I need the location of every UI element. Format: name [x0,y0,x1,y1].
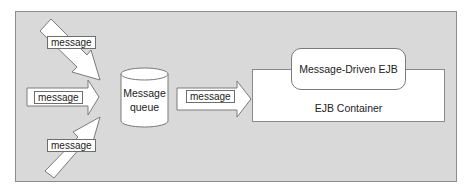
queue-label-line2: queue [121,101,168,113]
ejb-container-label: EJB Container [253,102,444,114]
diagram-canvas: message message message Message queue me… [0,0,472,190]
message-label-3: message [47,139,96,152]
message-driven-ejb-box: Message-Driven EJB [291,48,406,90]
queue-label-line1: Message [121,87,168,99]
message-label-1: message [47,36,96,49]
message-label-2: message [34,91,83,104]
message-driven-ejb-label: Message-Driven EJB [292,63,405,75]
arrow-diagonal-down-icon [40,19,100,80]
forward-message-label: message [186,90,235,103]
